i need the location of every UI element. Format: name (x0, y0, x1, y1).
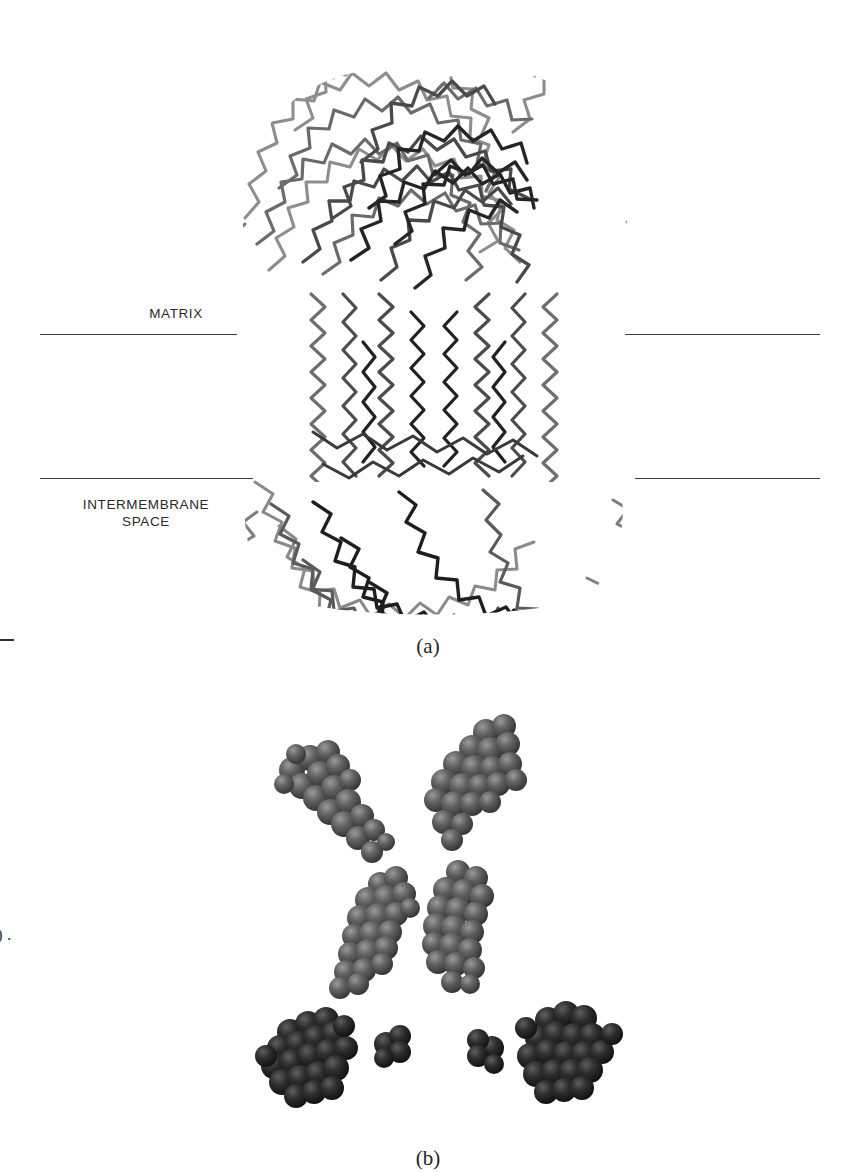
membrane-line-upper-left (40, 334, 237, 335)
figure-page: MATRIX INTERMEMBRANE SPACE (a) (0, 0, 845, 1172)
panel-a: MATRIX INTERMEMBRANE SPACE (0, 0, 845, 672)
panel-b (0, 672, 845, 1172)
panel-a-caption: (a) (368, 634, 488, 659)
membrane-line-upper-right (625, 334, 820, 335)
margin-glyph-artifact: ) . (0, 922, 11, 948)
membrane-line-lower-right (635, 478, 820, 479)
intermembrane-space-label: INTERMEMBRANE SPACE (46, 497, 246, 531)
panel-b-caption: (b) (368, 1146, 488, 1171)
cofactor-space-filling-models (240, 692, 640, 1112)
matrix-label: MATRIX (76, 306, 276, 323)
margin-rule-artifact (0, 639, 14, 641)
membrane-line-lower-left (40, 478, 253, 479)
